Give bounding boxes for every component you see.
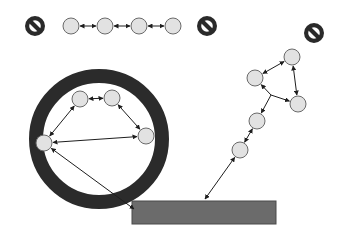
edge-t4-t5 (245, 129, 253, 142)
node-t3[interactable] (290, 96, 306, 112)
network-diagram (0, 0, 345, 232)
node-r1[interactable] (72, 91, 88, 107)
base-bar[interactable] (132, 201, 276, 224)
prohibited-icon (306, 25, 322, 41)
edge-t1-t3 (293, 66, 297, 95)
edge-branch-t4 (261, 95, 271, 113)
node-r3[interactable] (138, 128, 154, 144)
node-r4[interactable] (36, 135, 52, 151)
base-bar (132, 201, 276, 224)
node-t1[interactable] (284, 49, 300, 65)
edge-branch-t3 (271, 95, 289, 101)
node-t2[interactable] (247, 70, 263, 86)
node-c2[interactable] (97, 18, 113, 34)
edge-r1-r4 (50, 106, 75, 136)
edge-r2-r3 (118, 105, 140, 130)
edge-t5-bar (205, 157, 235, 199)
node-t5[interactable] (232, 142, 248, 158)
node-r2[interactable] (104, 90, 120, 106)
edge-t1-t2 (263, 61, 284, 73)
node-c4[interactable] (165, 18, 181, 34)
edge-branch-t2 (261, 85, 271, 95)
prohibited-icon (199, 18, 215, 34)
node-t4[interactable] (249, 113, 265, 129)
prohibited-icon (27, 18, 43, 34)
diagram-canvas (0, 0, 345, 232)
nodes (36, 18, 306, 158)
node-c3[interactable] (131, 18, 147, 34)
edge-r4-r3 (53, 137, 137, 143)
node-c1[interactable] (63, 18, 79, 34)
